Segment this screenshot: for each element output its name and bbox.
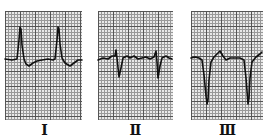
- lead-label-3: Ⅲ: [207, 122, 247, 138]
- lead-label-1: Ⅰ: [24, 122, 64, 138]
- ecg-trace-lead-1: [5, 27, 82, 66]
- ecg-traces: [0, 0, 269, 139]
- ecg-trace-lead-2: [98, 50, 172, 78]
- lead-label-2: Ⅱ: [115, 122, 155, 138]
- ecg-trace-lead-3: [191, 51, 262, 104]
